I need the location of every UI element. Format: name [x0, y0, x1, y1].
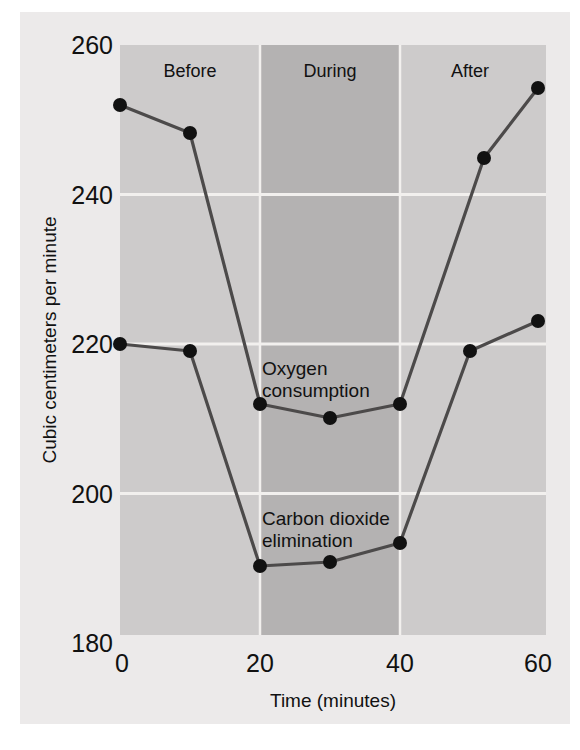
y-tick-200: 200 — [71, 480, 113, 508]
data-point — [113, 98, 127, 112]
data-point — [463, 344, 477, 358]
y-tick-180: 180 — [71, 629, 113, 657]
y-tick-240: 240 — [71, 181, 113, 209]
chart-figure: Before During After Oxygen — [0, 0, 580, 750]
data-point — [477, 151, 491, 165]
x-axis-title: Time (minutes) — [270, 690, 396, 711]
data-point — [183, 126, 197, 140]
annotation-co2-line2: elimination — [262, 530, 353, 551]
x-axis-tick-labels: 0 20 40 60 — [115, 649, 552, 677]
y-axis-tick-labels: 260 240 220 200 180 — [71, 31, 113, 657]
data-point — [531, 314, 545, 328]
data-point — [323, 411, 337, 425]
x-tick-20: 20 — [246, 649, 274, 677]
data-point — [253, 559, 267, 573]
band-label-during: During — [303, 61, 356, 81]
x-tick-60: 60 — [524, 649, 552, 677]
y-tick-220: 220 — [71, 330, 113, 358]
band-label-after: After — [451, 61, 489, 81]
annotation-oxygen-line1: Oxygen — [262, 358, 327, 379]
y-axis-title: Cubic centimeters per minute — [39, 216, 60, 463]
annotation-oxygen-line2: consumption — [262, 380, 370, 401]
data-point — [113, 337, 127, 351]
data-point — [393, 397, 407, 411]
data-point — [183, 344, 197, 358]
data-point — [531, 81, 545, 95]
data-point — [393, 536, 407, 550]
x-tick-0: 0 — [115, 649, 129, 677]
annotation-co2-line1: Carbon dioxide — [262, 508, 390, 529]
band-label-before: Before — [163, 61, 216, 81]
line-chart: Before During After Oxygen — [0, 0, 580, 750]
data-point — [323, 555, 337, 569]
y-tick-260: 260 — [71, 31, 113, 59]
x-tick-40: 40 — [386, 649, 414, 677]
